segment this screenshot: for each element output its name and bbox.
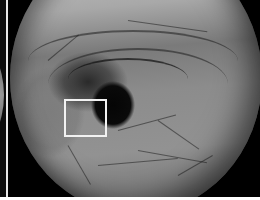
adjacent-scope-arc (0, 40, 4, 150)
mucosal-fold (68, 58, 188, 100)
bottom-margin (0, 197, 260, 200)
endoscopy-figure (0, 0, 260, 197)
endoscopy-image-panel (8, 0, 260, 197)
region-of-interest-box (64, 99, 107, 137)
